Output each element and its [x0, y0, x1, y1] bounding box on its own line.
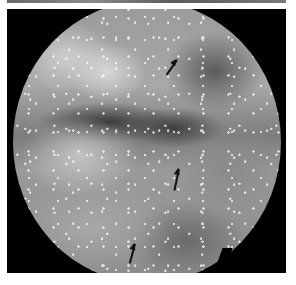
top-image-strip: [7, 0, 286, 3]
endoscopic-field-of-view: [13, 9, 281, 273]
endoscopic-image-frame: [7, 9, 286, 273]
specular-highlights: [13, 9, 281, 273]
